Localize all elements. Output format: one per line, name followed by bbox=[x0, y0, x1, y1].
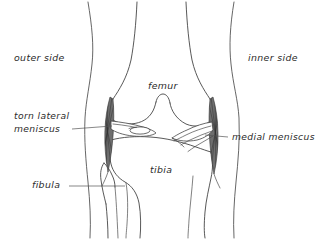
text-annotations: outer side inner side femur tibia torn l… bbox=[14, 52, 315, 190]
tibia-lateral-border bbox=[110, 140, 141, 238]
medial-meniscus-body bbox=[172, 122, 213, 141]
femur-lateral-condyle bbox=[110, 102, 156, 124]
femur-shaft-right bbox=[186, 2, 213, 116]
tibia-bone bbox=[110, 137, 213, 238]
femur-intercondylar-notch bbox=[156, 94, 170, 103]
knee-diagram-canvas: outer side inner side femur tibia torn l… bbox=[0, 0, 326, 240]
label-medial-meniscus: medial meniscus bbox=[232, 131, 315, 142]
label-torn-lateral-meniscus-line1: torn lateral bbox=[14, 110, 69, 121]
outer-skin-contour bbox=[85, 2, 93, 238]
label-torn-lateral-meniscus-line2: meniscus bbox=[14, 123, 60, 134]
inner-skin-contour bbox=[230, 2, 239, 238]
medial-collateral-ligament bbox=[206, 96, 224, 188]
meniscus-tear-fragment bbox=[130, 127, 150, 134]
label-inner-side: inner side bbox=[248, 52, 298, 63]
fibula-head-upper-edge bbox=[104, 163, 115, 187]
femur-shaft-left bbox=[110, 2, 137, 116]
medial-meniscus-shape bbox=[172, 122, 213, 152]
tibia-shaft-inner-line bbox=[126, 183, 128, 238]
lateral-ligament-body bbox=[105, 97, 114, 172]
fibula-shaft-inner bbox=[115, 187, 118, 238]
tibia-medial-border bbox=[204, 152, 212, 238]
lateral-ligament-lower-tail bbox=[102, 172, 108, 186]
label-femur: femur bbox=[148, 80, 179, 91]
label-fibula: fibula bbox=[32, 179, 60, 190]
label-tibia: tibia bbox=[150, 164, 172, 175]
label-outer-side: outer side bbox=[14, 52, 65, 63]
tibia-anterior-crest bbox=[188, 176, 193, 238]
fibula-shaft-outer bbox=[106, 204, 108, 238]
medial-ligament-lower-tail bbox=[214, 174, 220, 188]
knee-anatomy-diagram: outer side inner side femur tibia torn l… bbox=[0, 0, 326, 240]
femur-bone bbox=[110, 2, 214, 126]
